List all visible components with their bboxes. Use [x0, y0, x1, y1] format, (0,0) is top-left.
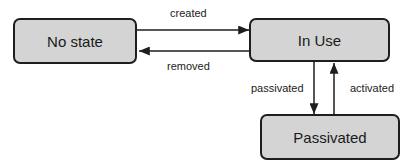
state-no-state: No state [13, 18, 137, 64]
state-passivated: Passivated [260, 114, 400, 160]
created-label: created [170, 7, 207, 19]
state-label: Passivated [293, 129, 366, 146]
removed-label: removed [167, 60, 210, 72]
state-label: In Use [298, 32, 341, 49]
activated-label: activated [350, 82, 394, 94]
state-in-use: In Use [249, 18, 390, 62]
passivated-label: passivated [251, 82, 304, 94]
state-label: No state [47, 33, 103, 50]
